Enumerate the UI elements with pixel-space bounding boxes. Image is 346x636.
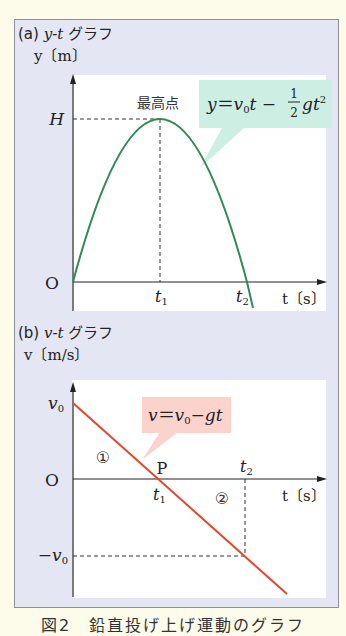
graph-b-tick-t1: t1 xyxy=(153,485,166,505)
graph-b-tick-v0: v0 xyxy=(48,393,64,414)
graph-b-y-arrow-icon xyxy=(70,382,76,392)
figure-caption: 図2 鉛直投げ上げ運動のグラフ xyxy=(0,612,346,636)
graph-b-origin: O xyxy=(45,470,59,490)
graph-b-tick-neg-v0: −v0 xyxy=(38,545,68,566)
graph-b-tick-t2: t2 xyxy=(240,457,253,477)
graph-b-region-2: ② xyxy=(215,489,229,508)
graph-b-x-unit: t〔s〕 xyxy=(282,487,326,505)
graph-b-region-1: ① xyxy=(96,448,110,467)
graph-b-point-P: P xyxy=(157,459,168,478)
graph-b-x-arrow-icon xyxy=(317,476,327,482)
